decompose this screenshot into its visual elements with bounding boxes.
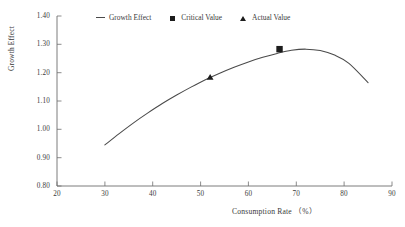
x-tick-label-90: 90: [381, 190, 403, 198]
x-tick-label-70: 70: [285, 190, 307, 198]
x-tick-label-20: 20: [46, 190, 68, 198]
y-axis-title: Growth Effect: [7, 19, 16, 79]
x-tick-label-30: 30: [94, 190, 116, 198]
legend-label-critical-value: Critical Value: [181, 13, 222, 22]
x-tick-label-80: 80: [333, 190, 355, 198]
y-tick-marks: [57, 16, 62, 186]
y-tick-label-110: 1.10: [24, 97, 50, 105]
chart-figure: 1.40 1.30 1.20 1.10 1.00 0.90 0.80 20 30…: [0, 0, 405, 227]
x-tick-marks: [57, 182, 392, 187]
line-glyph-icon: [96, 13, 105, 22]
legend-item-critical-value: Critical Value: [168, 13, 222, 22]
legend-item-actual-value: Actual Value: [239, 13, 290, 22]
growth-effect-curve: [105, 49, 368, 145]
legend-label-growth-effect: Growth Effect: [109, 13, 151, 22]
critical-value-marker: [276, 46, 282, 52]
x-axis-title: Consumption Rate （%）: [232, 205, 317, 216]
y-tick-label-120: 1.20: [24, 69, 50, 77]
y-tick-label-100: 1.00: [24, 125, 50, 133]
chart-legend: Growth Effect Critical Value Actual Valu…: [96, 13, 290, 22]
y-tick-label-080: 0.80: [24, 182, 50, 190]
x-tick-label-40: 40: [142, 190, 164, 198]
y-tick-label-130: 1.30: [24, 40, 50, 48]
y-tick-label-140: 1.40: [24, 12, 50, 20]
legend-item-growth-effect: Growth Effect: [96, 13, 151, 22]
x-tick-label-60: 60: [237, 190, 259, 198]
triangle-glyph-icon: [239, 13, 248, 22]
y-tick-label-090: 0.90: [24, 154, 50, 162]
square-glyph-icon: [168, 13, 177, 22]
x-tick-label-50: 50: [190, 190, 212, 198]
legend-label-actual-value: Actual Value: [252, 13, 290, 22]
